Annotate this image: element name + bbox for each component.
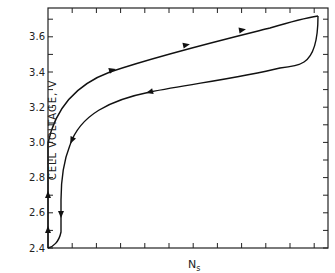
y-tick-label: 2.8	[29, 172, 45, 183]
y-tick-label: 3.6	[29, 31, 45, 42]
y-tick-label: 3.4	[29, 67, 45, 78]
x-label-main: N	[188, 258, 196, 271]
y-tick-label: 2.6	[29, 207, 45, 218]
arrow-icon	[45, 191, 51, 198]
x-label-sub: s	[196, 264, 200, 273]
direction-arrows	[45, 26, 246, 233]
arrow-icon	[58, 211, 64, 218]
x-axis-label: Ns	[188, 258, 200, 273]
y-axis-label: CELL VOLTAGE, V	[47, 80, 58, 181]
arrow-icon	[68, 136, 76, 145]
arrow-icon	[45, 226, 51, 233]
y-tick-label: 3.0	[29, 137, 45, 148]
curves	[48, 16, 318, 248]
arrow-icon	[239, 26, 247, 33]
y-tick-label: 2.4	[29, 243, 45, 254]
charge-curve	[48, 16, 318, 248]
y-tick-label: 3.2	[29, 102, 45, 113]
arrow-icon	[182, 41, 190, 48]
